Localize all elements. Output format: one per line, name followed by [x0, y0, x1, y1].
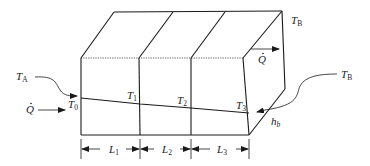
label-T-A: TA: [16, 70, 28, 84]
label-L1: L1: [108, 143, 119, 157]
heat-flow-out: Q: [251, 49, 279, 65]
label-T0: T0: [68, 98, 78, 112]
label-T-B-right: TB: [341, 68, 352, 82]
label-T1: T1: [127, 89, 137, 103]
ambient-temperature-b: TB: [257, 68, 352, 112]
wall-top-face: [81, 11, 282, 58]
heat-flow-in: Q: [26, 103, 65, 115]
label-Q-dot-in: Q: [26, 103, 34, 115]
label-Q-dot-out: Q: [258, 53, 266, 65]
temperature-profile-line: [81, 98, 249, 113]
ambient-temperature-a: TA: [16, 70, 77, 96]
label-T2: T2: [177, 94, 187, 108]
label-T3: T3: [236, 99, 246, 113]
wall-front-face: [81, 58, 249, 135]
label-T-B-top: TB: [291, 14, 302, 28]
label-h-b: hb: [271, 115, 281, 129]
q-dot-accent: [262, 53, 264, 55]
label-L2: L2: [161, 143, 172, 157]
q-dot-accent: [30, 103, 32, 105]
composite-wall-diagram: TA Q T0 T1 T2 T3 TB Q TB hb L1 L2: [0, 0, 370, 166]
dimension-lines: L1 L2 L3: [81, 139, 249, 159]
label-L3: L3: [216, 143, 227, 157]
